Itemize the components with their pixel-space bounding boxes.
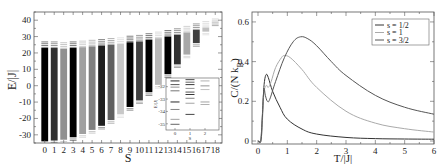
energy-level bbox=[127, 36, 134, 37]
energy-level bbox=[136, 39, 143, 40]
energy-spectrum-chart: -30-20-10010203040 012345678910111213141… bbox=[5, 12, 222, 165]
energy-level bbox=[79, 137, 86, 138]
energy-bar bbox=[174, 35, 181, 64]
energy-level bbox=[108, 123, 115, 124]
energy-level bbox=[174, 30, 181, 31]
energy-level bbox=[108, 38, 115, 39]
y-tick-label: 0 bbox=[27, 81, 32, 91]
x-tick-label: 17 bbox=[201, 145, 211, 155]
energy-level bbox=[89, 43, 96, 44]
inset-level bbox=[171, 90, 180, 91]
energy-bar bbox=[155, 38, 162, 85]
inset-level bbox=[186, 79, 195, 80]
inset-level bbox=[171, 109, 180, 110]
energy-level bbox=[183, 31, 190, 32]
x-tick-label: 0 bbox=[256, 146, 261, 156]
left-y-axis-label: E/|J| bbox=[5, 70, 19, 90]
energy-level bbox=[164, 77, 171, 78]
inset-level bbox=[201, 85, 210, 86]
y-tick-label: -20 bbox=[19, 113, 31, 123]
energy-level bbox=[79, 46, 86, 47]
inset-level bbox=[171, 119, 180, 120]
energy-level bbox=[70, 47, 77, 48]
energy-level bbox=[108, 44, 115, 45]
energy-level bbox=[127, 110, 134, 111]
energy-level bbox=[155, 33, 162, 34]
energy-level bbox=[136, 35, 143, 36]
inset-level bbox=[186, 103, 195, 104]
energy-level bbox=[117, 37, 124, 38]
energy-level bbox=[136, 40, 143, 41]
x-tick-label: 7 bbox=[109, 145, 114, 155]
energy-level bbox=[183, 56, 190, 57]
energy-level bbox=[202, 34, 209, 35]
x-tick-label: 10 bbox=[135, 145, 145, 155]
x-tick-label: 6 bbox=[432, 146, 437, 156]
energy-level bbox=[70, 139, 77, 140]
energy-level bbox=[79, 42, 86, 43]
x-tick-label: 16 bbox=[192, 145, 202, 155]
energy-bar bbox=[89, 46, 96, 130]
inset-level bbox=[171, 102, 180, 103]
inset-level bbox=[186, 94, 195, 95]
energy-level bbox=[89, 133, 96, 134]
x-tick-label: 1 bbox=[52, 145, 57, 155]
svg-text:0: 0 bbox=[174, 131, 177, 136]
energy-level bbox=[79, 41, 86, 42]
energy-level bbox=[146, 37, 153, 38]
energy-level bbox=[193, 25, 200, 26]
y-tick-label: 30 bbox=[22, 32, 32, 42]
energy-bar bbox=[41, 48, 48, 141]
energy-level bbox=[98, 41, 105, 42]
energy-level bbox=[155, 37, 162, 38]
energy-level bbox=[193, 44, 200, 45]
energy-level bbox=[98, 127, 105, 128]
energy-level bbox=[183, 26, 190, 27]
energy-level bbox=[60, 46, 67, 47]
x-tick-label: 14 bbox=[173, 145, 183, 155]
svg-text:-33: -33 bbox=[158, 97, 165, 102]
inset-level bbox=[171, 87, 180, 88]
heat-capacity-lines bbox=[258, 37, 434, 143]
energy-level bbox=[212, 19, 219, 20]
energy-bar bbox=[98, 46, 105, 126]
legend: s = 1/2s = 1s = 3/2 bbox=[372, 19, 429, 45]
svg-text:-35: -35 bbox=[158, 122, 165, 127]
x-tick-label: 3 bbox=[71, 145, 76, 155]
energy-level bbox=[146, 39, 153, 40]
energy-level bbox=[174, 28, 181, 29]
energy-level bbox=[51, 41, 58, 42]
energy-level bbox=[89, 45, 96, 46]
energy-level bbox=[98, 44, 105, 45]
inset-level bbox=[186, 84, 195, 85]
inset-level bbox=[171, 84, 180, 85]
legend-entry: s = 3/2 bbox=[387, 36, 409, 45]
energy-level bbox=[183, 57, 190, 58]
energy-level bbox=[146, 94, 153, 95]
right-y-axis-label: C/(N kB) bbox=[228, 58, 245, 98]
x-tick-label: 15 bbox=[182, 145, 192, 155]
energy-level bbox=[136, 102, 143, 103]
energy-level bbox=[127, 41, 134, 42]
energy-level bbox=[98, 129, 105, 130]
energy-level bbox=[202, 33, 209, 34]
energy-level bbox=[70, 41, 77, 42]
energy-level bbox=[51, 45, 58, 46]
x-tick-label: 1 bbox=[285, 146, 290, 156]
energy-bar bbox=[164, 37, 171, 75]
energy-level bbox=[193, 46, 200, 47]
energy-level bbox=[146, 33, 153, 34]
energy-bar bbox=[108, 45, 115, 120]
energy-level bbox=[117, 41, 124, 42]
series-line-2 bbox=[258, 37, 434, 143]
svg-text:S: S bbox=[189, 136, 192, 141]
inset-level bbox=[201, 89, 210, 90]
energy-bar bbox=[117, 44, 124, 114]
inset-level bbox=[201, 102, 210, 103]
energy-level bbox=[79, 44, 86, 45]
x-tick-label: 12 bbox=[154, 145, 163, 155]
energy-level bbox=[117, 43, 124, 44]
energy-level bbox=[117, 117, 124, 118]
x-tick-label: 4 bbox=[80, 145, 85, 155]
svg-text:-34: -34 bbox=[158, 109, 165, 114]
